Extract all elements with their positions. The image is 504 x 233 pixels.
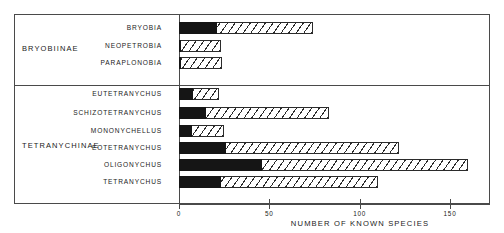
- bar-solid-segment: [179, 107, 206, 119]
- x-axis-tick-mark: [269, 199, 270, 209]
- genus-row: MONONYCHELLUS: [14, 125, 490, 137]
- subfamily-divider-line: [14, 85, 490, 86]
- x-axis-tick-mark: [179, 199, 180, 209]
- bar-solid-segment: [179, 40, 181, 52]
- bar-total-hatched: [179, 40, 221, 52]
- bar-solid-segment: [179, 88, 193, 100]
- genus-label: MONONYCHELLUS: [91, 125, 162, 137]
- genus-label: OLIGONYCHUS: [104, 159, 162, 171]
- genus-row: SCHIZOTETRANYCHUS: [14, 107, 490, 119]
- genus-row: TETRANYCHUS: [14, 176, 490, 188]
- x-axis-line: [179, 204, 490, 205]
- x-axis-tick-label: 0: [177, 210, 181, 217]
- x-axis-tick-label: 100: [353, 210, 366, 217]
- genus-row: NEOPETROBIA: [14, 40, 490, 52]
- genus-label: TETRANYCHUS: [103, 176, 162, 188]
- genus-row: EUTETRANYCHUS: [14, 88, 490, 100]
- x-axis-tick-label: 50: [265, 210, 274, 217]
- bar-total-hatched: [179, 57, 222, 69]
- genus-row: EOTETRANYCHUS: [14, 142, 490, 154]
- genus-label: NEOPETROBIA: [105, 40, 162, 52]
- bar-solid-segment: [179, 159, 262, 171]
- genus-label: EUTETRANYCHUS: [92, 88, 162, 100]
- genus-label: EOTETRANYCHUS: [92, 142, 162, 154]
- x-axis-title: NUMBER OF KNOWN SPECIES: [291, 219, 429, 228]
- species-bar-chart-figure: BRYOBIINAE TETRANYCHINAE BRYOBIANEOPETRO…: [0, 0, 504, 233]
- genus-row: OLIGONYCHUS: [14, 159, 490, 171]
- bar-solid-segment: [179, 176, 221, 188]
- genus-row: PARAPLONOBIA: [14, 57, 490, 69]
- genus-label: BRYOBIA: [127, 22, 162, 34]
- genus-label: PARAPLONOBIA: [101, 57, 162, 69]
- genus-row: BRYOBIA: [14, 22, 490, 34]
- x-axis-tick-mark: [360, 199, 361, 209]
- bar-solid-segment: [179, 22, 217, 34]
- bar-solid-segment: [179, 142, 226, 154]
- bar-solid-segment: [179, 57, 181, 69]
- bar-solid-segment: [179, 125, 192, 137]
- x-axis-tick-label: 150: [444, 210, 457, 217]
- x-axis-tick-mark: [450, 199, 451, 209]
- genus-label: SCHIZOTETRANYCHUS: [73, 107, 162, 119]
